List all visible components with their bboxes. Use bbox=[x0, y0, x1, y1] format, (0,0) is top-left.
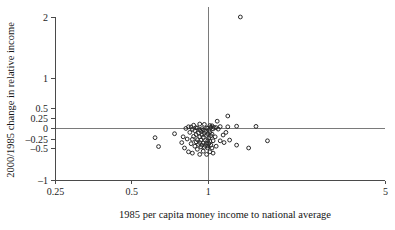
axis-ticks bbox=[51, 18, 386, 185]
y-tick-label: –0.5 bbox=[30, 143, 49, 154]
data-point bbox=[235, 124, 239, 128]
data-point bbox=[195, 147, 199, 151]
data-point bbox=[185, 137, 189, 141]
data-point bbox=[238, 15, 242, 19]
y-tick-label: 0 bbox=[43, 123, 48, 134]
data-point bbox=[222, 141, 226, 145]
data-point bbox=[198, 153, 202, 157]
data-point bbox=[247, 146, 251, 150]
data-point bbox=[189, 142, 193, 146]
x-tick-label: 1 bbox=[206, 186, 211, 197]
x-axis-title: 1985 per capita money income to national… bbox=[119, 209, 331, 220]
scatter-plot: 210.50.250–0.25–0.5–10.250.515 1985 per … bbox=[0, 0, 395, 230]
data-points bbox=[153, 15, 269, 156]
data-point bbox=[201, 149, 205, 153]
chart-page: 210.50.250–0.25–0.5–10.250.515 1985 per … bbox=[0, 0, 395, 230]
data-point bbox=[224, 131, 228, 135]
data-point bbox=[180, 141, 184, 145]
data-point bbox=[187, 150, 191, 154]
data-point bbox=[218, 139, 222, 143]
axis-lines bbox=[56, 17, 386, 181]
y-tick-label: –1 bbox=[37, 175, 48, 186]
data-point bbox=[226, 114, 230, 118]
data-point bbox=[190, 151, 194, 155]
data-point bbox=[183, 146, 187, 150]
y-tick-label: 2 bbox=[43, 12, 48, 23]
data-point bbox=[157, 145, 161, 149]
data-point bbox=[202, 123, 206, 127]
y-axis-title: 2000/1985 change in relative income bbox=[5, 22, 16, 178]
x-tick-label: 5 bbox=[383, 186, 388, 197]
data-point bbox=[214, 144, 218, 148]
data-point bbox=[188, 131, 192, 135]
reference-lines bbox=[55, 7, 385, 180]
data-point bbox=[215, 119, 219, 123]
data-point bbox=[235, 143, 239, 147]
data-point bbox=[266, 139, 270, 143]
x-tick-label: 0.5 bbox=[126, 186, 139, 197]
data-point bbox=[153, 136, 157, 140]
data-point bbox=[198, 122, 202, 126]
tick-labels: 210.50.250–0.25–0.5–10.250.515 bbox=[25, 12, 389, 197]
data-point bbox=[213, 135, 217, 139]
y-tick-label: 1 bbox=[43, 73, 48, 84]
x-tick-label: 0.25 bbox=[47, 186, 65, 197]
data-point bbox=[181, 135, 185, 139]
data-point bbox=[173, 132, 177, 136]
data-point bbox=[228, 138, 232, 142]
data-point bbox=[254, 125, 258, 129]
